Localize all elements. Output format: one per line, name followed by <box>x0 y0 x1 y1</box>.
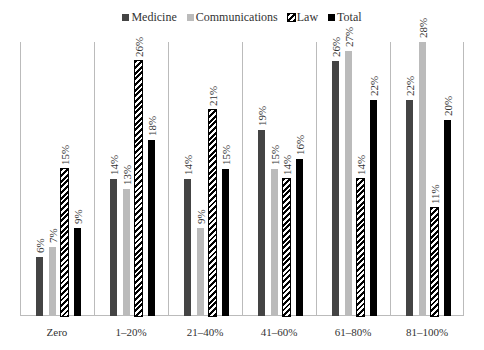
bar-communications <box>49 247 56 316</box>
bar-communications <box>419 42 426 316</box>
legend-swatch-law <box>288 14 295 21</box>
bar-law <box>61 169 68 316</box>
data-label: 20% <box>442 96 454 116</box>
data-label: 9% <box>72 209 84 224</box>
data-label: 21% <box>207 86 219 106</box>
data-label: 27% <box>343 27 355 47</box>
bar-law <box>135 61 142 316</box>
category-label: 41–60% <box>242 326 316 338</box>
bar-total <box>296 159 303 316</box>
data-label: 22% <box>368 76 380 96</box>
category-label: Zero <box>20 326 94 338</box>
bar-law <box>431 208 438 316</box>
data-label: 16% <box>294 135 306 155</box>
category-label: 81–100% <box>390 326 464 338</box>
data-label: 26% <box>330 37 342 57</box>
bar-medicine <box>332 61 339 316</box>
bar-medicine <box>406 100 413 316</box>
chart-legend: Medicine Communications Law Total <box>0 10 484 25</box>
bar-law <box>357 179 364 316</box>
bar-total <box>74 228 81 316</box>
bar-communications <box>271 169 278 316</box>
data-label: 22% <box>404 76 416 96</box>
legend-label-communications: Communications <box>196 10 278 25</box>
legend-swatch-medicine <box>122 14 129 21</box>
legend-item-communications: Communications <box>187 10 278 25</box>
data-label: 28% <box>417 18 429 38</box>
bar-total <box>444 120 451 316</box>
bar-total <box>222 169 229 316</box>
category-label: 21–40% <box>168 326 242 338</box>
bar-group: 14%9%21%15% <box>169 42 243 316</box>
bar-medicine <box>184 179 191 316</box>
bar-total <box>370 100 377 316</box>
data-label: 7% <box>47 228 59 243</box>
data-label: 9% <box>195 209 207 224</box>
bar-total <box>148 140 155 316</box>
legend-swatch-communications <box>187 14 194 21</box>
data-label: 11% <box>429 184 441 204</box>
bar-group: 14%13%26%18% <box>95 42 169 316</box>
bar-communications <box>123 189 130 316</box>
bar-law <box>209 110 216 316</box>
bar-communications <box>197 228 204 316</box>
data-label: 14% <box>182 155 194 175</box>
category-label: 61–80% <box>316 326 390 338</box>
legend-label-law: Law <box>297 10 318 25</box>
legend-item-total: Total <box>328 10 362 25</box>
legend-label-total: Total <box>337 10 362 25</box>
data-label: 6% <box>34 238 46 253</box>
bar-medicine <box>110 179 117 316</box>
data-label: 14% <box>281 155 293 175</box>
data-label: 13% <box>121 165 133 185</box>
data-label: 14% <box>355 155 367 175</box>
legend-item-medicine: Medicine <box>122 10 176 25</box>
plot-area: 6%7%15%9%14%13%26%18%14%9%21%15%19%15%14… <box>20 42 464 316</box>
bar-medicine <box>36 257 43 316</box>
bar-communications <box>345 51 352 316</box>
bar-law <box>283 179 290 316</box>
bar-group: 19%15%14%16% <box>243 42 317 316</box>
legend-swatch-total <box>328 14 335 21</box>
bar-medicine <box>258 130 265 316</box>
data-label: 18% <box>146 116 158 136</box>
data-label: 15% <box>220 145 232 165</box>
bar-group: 22%28%11%20% <box>391 42 465 316</box>
data-label: 15% <box>59 145 71 165</box>
data-label: 15% <box>269 145 281 165</box>
data-label: 19% <box>256 106 268 126</box>
bar-group: 6%7%15%9% <box>21 42 95 316</box>
legend-item-law: Law <box>288 10 318 25</box>
data-label: 14% <box>108 155 120 175</box>
category-label: 1–20% <box>94 326 168 338</box>
legend-label-medicine: Medicine <box>131 10 176 25</box>
data-label: 26% <box>133 37 145 57</box>
bar-group: 26%27%14%22% <box>317 42 391 316</box>
